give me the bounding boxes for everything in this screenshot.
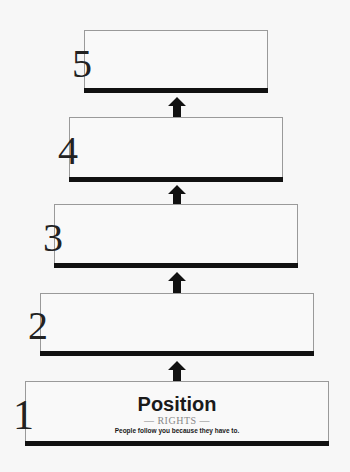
level-4-number: 4 — [58, 131, 78, 171]
level-2-base-bar — [40, 351, 314, 356]
level-1-subtitle: — RIGHTS — — [26, 416, 328, 426]
level-1-base-bar — [25, 441, 329, 446]
level-2-number: 2 — [28, 306, 48, 346]
level-5-number: 5 — [72, 44, 92, 84]
level-4-base-bar — [69, 177, 283, 182]
level-1-box: Position — RIGHTS — People follow you be… — [25, 381, 329, 446]
level-1-title: Position — [26, 394, 328, 414]
level-5-box — [84, 30, 268, 93]
level-2-box — [40, 293, 314, 356]
level-4-box — [69, 117, 283, 182]
level-3-base-bar — [54, 263, 298, 268]
level-5-base-bar — [84, 88, 268, 93]
level-1-description: People follow you because they have to. — [26, 428, 328, 435]
level-3-number: 3 — [43, 218, 63, 258]
level-3-box — [54, 204, 298, 268]
level-1-number: 1 — [13, 394, 34, 436]
